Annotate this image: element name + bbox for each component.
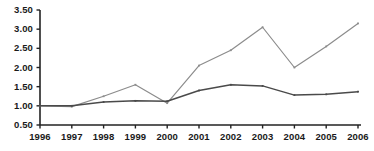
series-point-upper-series xyxy=(135,84,137,86)
series-point-upper-series xyxy=(357,23,359,25)
series-point-lower-series xyxy=(325,93,327,95)
series-point-lower-series xyxy=(262,85,264,87)
x-axis-tick-label: 2006 xyxy=(341,131,374,142)
y-axis-tick-label: 1.00 xyxy=(3,101,33,111)
series-point-lower-series xyxy=(39,105,41,107)
series-point-upper-series xyxy=(198,65,200,67)
x-axis-tick-label: 1999 xyxy=(118,131,152,142)
series-point-lower-series xyxy=(71,105,73,107)
x-axis-tick-label: 1997 xyxy=(55,131,89,142)
series-point-upper-series xyxy=(294,67,296,69)
series-point-upper-series xyxy=(325,46,327,48)
x-axis-tick-label: 2004 xyxy=(277,131,311,142)
x-axis-tick-label: 2003 xyxy=(246,131,280,142)
y-axis-tick-label: 1.50 xyxy=(3,82,33,92)
series-point-upper-series xyxy=(230,49,232,51)
chart-axes xyxy=(40,10,361,125)
y-axis-tick-label: 0.50 xyxy=(3,120,33,130)
series-point-upper-series xyxy=(166,102,168,104)
series-point-lower-series xyxy=(198,90,200,92)
y-axis-tick-label: 2.50 xyxy=(3,43,33,53)
y-axis-tick-label: 2.00 xyxy=(3,63,33,73)
series-point-lower-series xyxy=(166,100,168,102)
chart-plot-area xyxy=(0,0,374,151)
series-point-lower-series xyxy=(294,94,296,96)
series-point-lower-series xyxy=(135,100,137,102)
series-point-upper-series xyxy=(103,95,105,97)
y-axis-tick-label: 3.00 xyxy=(3,24,33,34)
x-axis-tick-label: 1996 xyxy=(23,131,57,142)
y-axis-tick-label: 3.50 xyxy=(3,5,33,15)
x-axis-tick-label: 2002 xyxy=(214,131,248,142)
series-point-upper-series xyxy=(262,26,264,28)
series-point-lower-series xyxy=(103,101,105,103)
series-point-lower-series xyxy=(357,91,359,93)
x-axis-tick-label: 2000 xyxy=(150,131,184,142)
cut-off-caption xyxy=(0,146,374,151)
x-axis-tick-label: 2001 xyxy=(182,131,216,142)
line-chart-figure: 0.501.001.502.002.503.003.50 19961997199… xyxy=(0,0,374,151)
x-axis-tick-label: 1998 xyxy=(87,131,121,142)
series-point-lower-series xyxy=(230,84,232,86)
chart-series-group xyxy=(39,23,359,108)
series-line-lower-series xyxy=(40,85,358,106)
x-axis-tick-label: 2005 xyxy=(309,131,343,142)
